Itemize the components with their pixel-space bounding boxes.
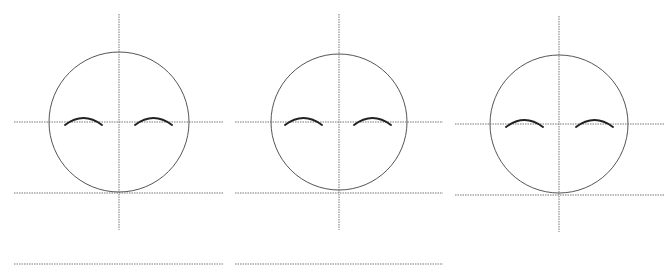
left-eyebrow xyxy=(65,118,102,125)
left-eyebrow xyxy=(506,120,543,127)
face-construction-diagram xyxy=(0,0,672,265)
diagram-panels xyxy=(14,14,665,232)
face-panel xyxy=(235,14,443,230)
face-panel xyxy=(455,16,665,232)
right-eyebrow xyxy=(576,120,613,127)
face-panel xyxy=(14,14,223,230)
right-eyebrow xyxy=(135,118,172,125)
